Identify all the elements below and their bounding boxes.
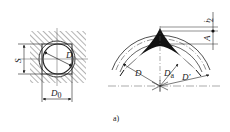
right-profile-view: D Da D' i 2 A: [108, 12, 222, 92]
half-label: 2: [206, 18, 215, 22]
d0-label: D0: [50, 88, 62, 100]
d-label-left: D: [65, 50, 73, 60]
left-cross-section: S D D0: [13, 28, 88, 102]
diagram-canvas: S D D0 D: [0, 0, 230, 132]
figure-caption: a): [113, 114, 120, 123]
d-prime-label: D': [181, 72, 191, 82]
d-radius: [123, 64, 160, 86]
d-label-right: D: [134, 68, 142, 78]
da-label: Da: [163, 68, 175, 80]
s-label: S: [13, 58, 23, 63]
dimension-dot: [211, 29, 214, 32]
a-label: A: [202, 35, 212, 42]
hatched-material: [30, 31, 86, 83]
